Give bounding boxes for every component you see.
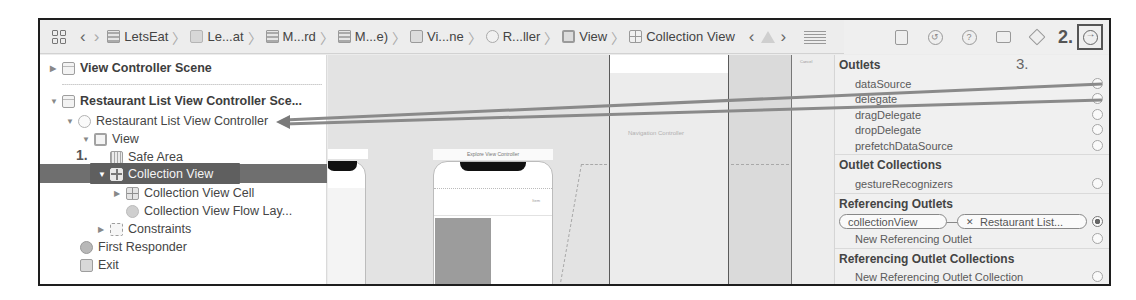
scene-icon: [62, 62, 75, 75]
disclosure-collapsed-icon[interactable]: ▶: [98, 225, 110, 234]
breadcrumb-separator-icon: 〉: [392, 27, 406, 47]
connection-circle-icon[interactable]: [1092, 233, 1103, 244]
id-card-icon: [996, 31, 1011, 43]
editor-options-icon[interactable]: [804, 30, 826, 44]
breadcrumb-view[interactable]: View: [562, 29, 607, 44]
warning-icon[interactable]: [761, 31, 775, 43]
disclosure-collapsed-icon[interactable]: ▶: [50, 64, 62, 73]
attributes-slider-icon: [1029, 29, 1046, 46]
disclosure-expanded-icon[interactable]: ▼: [98, 170, 110, 179]
connection-circle-icon[interactable]: [1092, 271, 1103, 282]
step-1-annotation: 1.: [76, 147, 88, 163]
project-icon: [107, 30, 120, 43]
tab-identity-inspector[interactable]: [986, 26, 1020, 48]
outlet-prefetch-datasource: prefetchDataSource: [855, 139, 1103, 152]
outline-item-view[interactable]: ▼ View: [82, 130, 139, 148]
disclosure-expanded-icon[interactable]: ▼: [82, 135, 94, 144]
outline-item-first-responder[interactable]: First Responder: [80, 238, 187, 256]
breadcrumb-scene[interactable]: Vi...ne: [410, 29, 464, 44]
back-arrow-icon[interactable]: ‹: [80, 27, 86, 47]
disclosure-collapsed-icon[interactable]: ▶: [114, 189, 126, 198]
navigation-controller-scene[interactable]: Navigation Controller: [609, 55, 729, 286]
breadcrumb-storyboard-base[interactable]: M...e): [338, 29, 388, 44]
tab-connections-inspector[interactable]: [1077, 24, 1103, 50]
scene-icon: [62, 95, 75, 108]
connections-arrow-icon: [1083, 30, 1098, 45]
view-controller-icon: [78, 115, 91, 128]
breadcrumb-separator-icon: 〉: [248, 27, 262, 47]
connection-circle-icon[interactable]: [1092, 93, 1103, 104]
outline-item-collection-view[interactable]: ▼ Collection View: [98, 165, 213, 183]
scene-title-bar: [328, 149, 368, 159]
divider: [434, 215, 552, 216]
divider: [434, 188, 552, 189]
tab-file-inspector[interactable]: [884, 26, 918, 48]
storyboard-canvas[interactable]: Explore View Controller Item Navigation …: [328, 55, 833, 286]
view-controller-icon: [486, 30, 499, 43]
outline-item-restaurant-list-scene[interactable]: ▼ Restaurant List View Controller Sce...: [50, 92, 302, 110]
storyboard-file-icon: [266, 30, 279, 43]
question-icon: ?: [962, 30, 977, 45]
referencing-outlet-collections-section-title: Referencing Outlet Collections: [839, 252, 1014, 266]
breadcrumb-separator-icon: 〉: [544, 27, 558, 47]
outline-item-view-controller-scene[interactable]: ▶ View Controller Scene: [50, 59, 212, 77]
xcode-interface-builder-window: ‹ › LetsEat 〉 Le...at 〉 M...rd 〉 M...e) …: [38, 18, 1111, 286]
clock-icon: ↺: [928, 30, 943, 45]
breadcrumb-separator-icon: 〉: [468, 27, 482, 47]
breadcrumb-separator-icon: 〉: [611, 27, 625, 47]
outline-item-flow-layout[interactable]: Collection View Flow Lay...: [126, 202, 292, 220]
scene-title-bar: [610, 55, 728, 73]
cancel-label: Cancel: [800, 59, 812, 64]
previous-issue-arrow-icon[interactable]: ‹: [749, 27, 755, 47]
breadcrumb-project[interactable]: LetsEat: [107, 29, 168, 44]
segue-line: [558, 164, 582, 286]
connection-circle-icon[interactable]: [1092, 178, 1103, 189]
collection-view-cell-preview: [435, 218, 491, 286]
divider: [62, 84, 322, 85]
tab-history-inspector[interactable]: ↺: [918, 26, 952, 48]
restaurant-list-scene-preview[interactable]: [328, 161, 366, 286]
next-issue-arrow-icon[interactable]: ›: [781, 27, 787, 47]
next-scene-preview[interactable]: Cancel: [791, 55, 833, 286]
view-icon: [94, 133, 107, 146]
connection-circle-icon[interactable]: [1092, 124, 1103, 135]
breadcrumb-view-controller[interactable]: R...ller: [486, 29, 541, 44]
breadcrumb-collection-view[interactable]: Collection View: [629, 29, 735, 44]
breadcrumb-folder[interactable]: Le...at: [190, 29, 243, 44]
file-icon: [895, 30, 908, 45]
collection-view-icon: [629, 30, 642, 43]
outlet-drop-delegate: dropDelegate: [855, 123, 1103, 136]
inspector-tab-bar: ↺ ? 2.: [844, 20, 1109, 54]
connected-circle-icon[interactable]: [1092, 216, 1103, 227]
step-2-annotation: 2.: [1058, 27, 1073, 48]
breadcrumb-storyboard[interactable]: M...rd: [266, 29, 316, 44]
outline-item-collection-view-cell[interactable]: ▶ Collection View Cell: [114, 184, 254, 202]
divider: [835, 154, 1110, 155]
connection-circle-icon[interactable]: [1092, 140, 1103, 151]
view-icon: [562, 30, 575, 43]
forward-arrow-icon[interactable]: ›: [94, 27, 100, 47]
divider: [835, 248, 1110, 249]
relationship-segue-arrow: [731, 164, 789, 165]
safe-area-icon: [110, 151, 123, 164]
exit-icon: [80, 259, 93, 272]
flow-layout-icon: [126, 205, 139, 218]
outlets-section-title: Outlets: [839, 58, 880, 72]
outline-item-constraints[interactable]: ▶ Constraints: [98, 220, 191, 238]
tab-attributes-inspector[interactable]: [1020, 26, 1054, 48]
connection-circle-icon[interactable]: [1092, 109, 1103, 120]
collection-view-cell-icon: [126, 187, 139, 200]
connection-circle-icon[interactable]: [1092, 78, 1103, 89]
disclosure-expanded-icon[interactable]: ▼: [66, 117, 78, 126]
outline-item-exit[interactable]: Exit: [80, 256, 119, 274]
collection-view-icon: [110, 168, 123, 181]
folder-icon: [190, 30, 203, 43]
tab-quick-help-inspector[interactable]: ?: [952, 26, 986, 48]
related-items-grid-icon[interactable]: [52, 30, 66, 44]
explore-scene-preview[interactable]: Item: [433, 161, 553, 286]
step-3-annotation: 3.: [1016, 55, 1029, 72]
outline-item-restaurant-list-view-controller[interactable]: ▼ Restaurant List View Controller: [66, 112, 268, 130]
device-notch: [328, 161, 357, 171]
outlet-delegate: delegate: [855, 92, 1103, 105]
disclosure-expanded-icon[interactable]: ▼: [50, 97, 62, 106]
